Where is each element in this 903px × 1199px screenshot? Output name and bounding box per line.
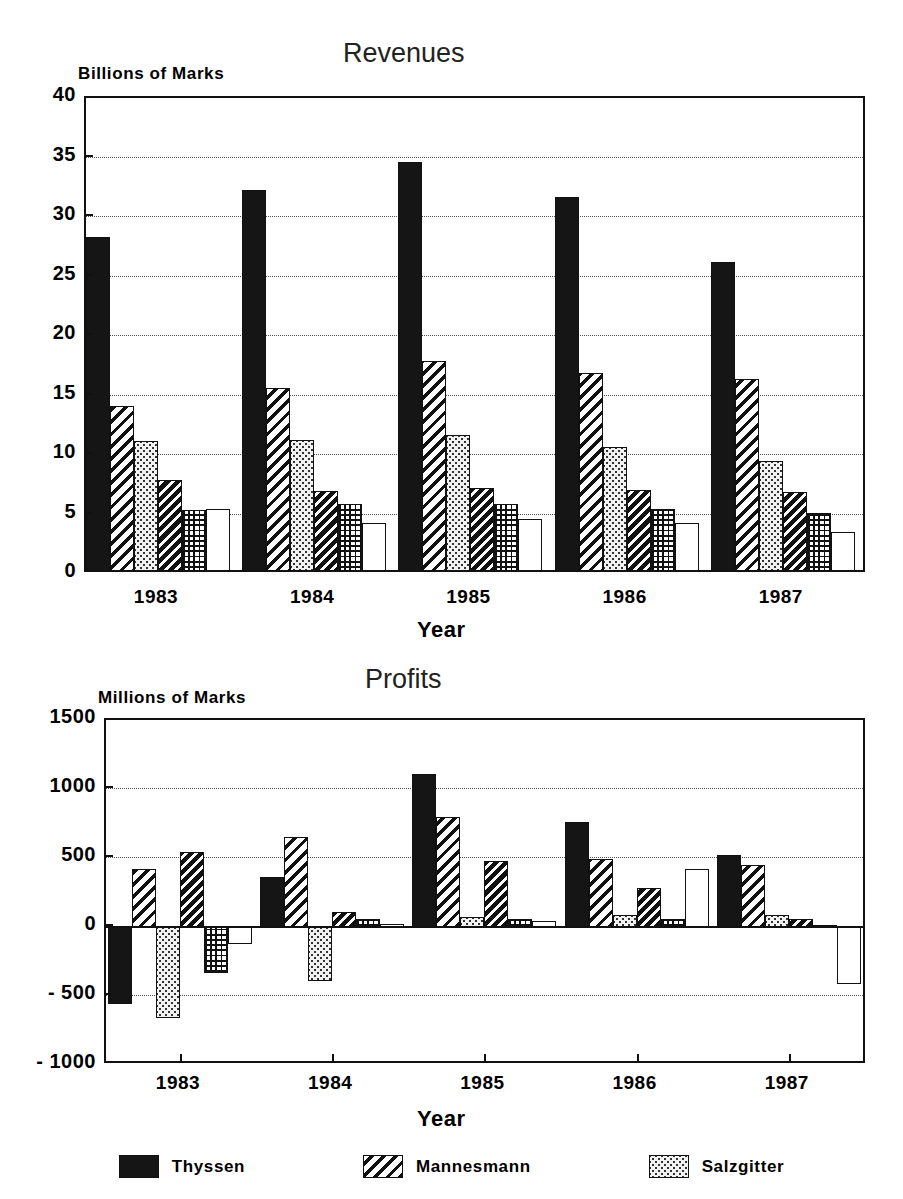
bar	[356, 919, 380, 927]
bar	[675, 523, 699, 572]
bar	[508, 919, 532, 927]
y-tickmark	[84, 393, 93, 395]
legend-swatch	[649, 1155, 689, 1178]
revenues-y-axis-label: Billions of Marks	[78, 64, 224, 84]
bar	[460, 917, 484, 927]
revenues-plot-area	[84, 96, 865, 572]
x-tickmark	[484, 1054, 486, 1063]
y-tick-label: 1000	[24, 774, 96, 797]
y-tick-label: 30	[32, 202, 76, 225]
x-tickmark	[180, 1054, 182, 1063]
bar	[314, 491, 338, 572]
bar	[765, 915, 789, 927]
bar	[436, 817, 460, 927]
bar	[532, 921, 556, 927]
bar	[651, 509, 675, 572]
bar	[589, 859, 613, 927]
figure-canvas: Revenues Billions of Marks 0510152025303…	[0, 0, 903, 1199]
x-tick-label: 1987	[737, 1072, 837, 1094]
bar	[338, 504, 362, 572]
legend-swatch	[363, 1155, 403, 1178]
bar	[308, 927, 332, 981]
y-tick-label: 20	[32, 321, 76, 344]
bar	[180, 852, 204, 927]
bar	[494, 504, 518, 572]
bar	[789, 919, 813, 927]
x-tick-label: 1984	[280, 1072, 380, 1094]
gridline	[86, 216, 863, 217]
x-tick-label: 1987	[731, 586, 831, 608]
bar	[134, 441, 158, 572]
bar	[362, 523, 386, 572]
y-tick-label: 0	[24, 912, 96, 935]
bar	[332, 912, 356, 927]
bar	[484, 861, 508, 927]
bar	[86, 237, 110, 572]
bar	[228, 927, 252, 944]
x-tick-label: 1984	[262, 586, 362, 608]
gridline	[106, 995, 863, 996]
gridline	[106, 788, 863, 789]
bar	[156, 927, 180, 1018]
bar	[661, 919, 685, 927]
bar	[182, 510, 206, 572]
bar	[260, 877, 284, 927]
gridline	[106, 857, 863, 858]
bar	[565, 822, 589, 927]
revenues-x-axis-label: Year	[417, 617, 466, 643]
bar	[518, 519, 542, 572]
revenues-chart-title: Revenues	[343, 38, 465, 69]
bar	[613, 915, 637, 927]
y-tick-label: 10	[32, 440, 76, 463]
y-tick-label: 1500	[24, 705, 96, 728]
bar	[807, 513, 831, 572]
y-tick-label: 40	[32, 83, 76, 106]
bar	[204, 927, 228, 973]
legend-label: Mannesmann	[416, 1157, 531, 1177]
y-tickmark	[84, 274, 93, 276]
legend-label: Thyssen	[172, 1157, 245, 1177]
y-tickmark	[84, 512, 93, 514]
y-tick-label: 0	[32, 559, 76, 582]
bar	[398, 162, 422, 572]
x-tick-label: 1983	[128, 1072, 228, 1094]
chart-legend: ThyssenMannesmannSalzgitter	[0, 1155, 903, 1178]
y-tick-label: 500	[24, 843, 96, 866]
y-tickmark	[84, 155, 93, 157]
x-tick-label: 1983	[106, 586, 206, 608]
y-tickmark	[84, 214, 93, 216]
bar	[422, 361, 446, 572]
profits-chart-title: Profits	[365, 664, 442, 695]
bar	[831, 532, 855, 572]
y-tickmark	[104, 855, 113, 857]
x-tickmark	[789, 1054, 791, 1063]
profits-plot-area	[104, 718, 865, 1063]
bar	[242, 190, 266, 572]
legend-item[interactable]: Thyssen	[119, 1155, 245, 1178]
bar	[158, 480, 182, 572]
bar	[813, 925, 837, 927]
bar	[717, 855, 741, 927]
legend-item[interactable]: Salzgitter	[649, 1155, 785, 1178]
y-tick-label: 35	[32, 143, 76, 166]
y-tickmark	[84, 452, 93, 454]
profits-y-axis-label: Millions of Marks	[98, 688, 246, 708]
gridline	[86, 276, 863, 277]
bar	[759, 461, 783, 572]
bar	[284, 837, 308, 927]
legend-swatch	[119, 1155, 159, 1178]
bar	[735, 379, 759, 572]
y-tick-label: - 1000	[24, 1050, 96, 1073]
x-tick-label: 1985	[432, 1072, 532, 1094]
bar	[380, 924, 404, 927]
y-tickmark	[104, 924, 113, 926]
bar	[685, 869, 709, 927]
profits-x-axis-label: Year	[417, 1106, 466, 1132]
bar	[266, 388, 290, 572]
y-tick-label: - 500	[24, 981, 96, 1004]
bar	[446, 435, 470, 572]
y-tick-label: 5	[32, 500, 76, 523]
x-tick-label: 1986	[585, 1072, 685, 1094]
bar	[711, 262, 735, 572]
legend-item[interactable]: Mannesmann	[363, 1155, 531, 1178]
